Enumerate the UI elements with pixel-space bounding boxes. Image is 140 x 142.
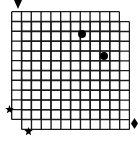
triangle-down-icon <box>14 0 22 9</box>
diamond-icon <box>131 118 138 129</box>
star-icon-bottom-left <box>23 126 34 137</box>
diagram-canvas <box>0 0 140 142</box>
star-icon-left <box>4 104 15 115</box>
front-grid <box>21 21 130 130</box>
